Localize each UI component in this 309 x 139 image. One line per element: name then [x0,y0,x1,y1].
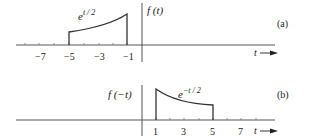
panel-a-tick-label: −1 [123,51,134,62]
panel-b-tag: (b) [277,89,289,101]
panel-a-y-label: f (t) [147,4,164,17]
panel-a-arrow-icon [260,51,278,56]
panel-a-tag: (a) [277,18,288,30]
panel-b-tick-label: 1 [153,126,158,137]
panel-a-x-label: t [254,47,257,58]
panel-b: e−t / 2 f (−t) (b) 1 3 5 7 t [16,85,289,137]
panel-a-curve-label: et / 2 [78,8,95,22]
panel-a-tick-label: −5 [64,51,75,62]
panel-b-x-label: t [254,125,257,136]
panel-a-tick-label: −7 [35,51,46,62]
panel-b-y-label: f (−t) [108,88,132,101]
panel-b-tick-label: 5 [210,126,215,137]
panel-b-tick-label: 3 [181,126,186,137]
panel-b-curve-label: e−t / 2 [178,86,201,100]
panel-a: et / 2 f (t) (a) −7 −5 −3 −1 t [16,3,288,62]
panel-a-tick-label: −3 [94,51,105,62]
panel-b-arrow-icon [260,129,278,134]
panel-b-tick-label: 7 [238,126,243,137]
time-reversal-diagram: et / 2 f (t) (a) −7 −5 −3 −1 t e−t / 2 f… [0,0,309,139]
